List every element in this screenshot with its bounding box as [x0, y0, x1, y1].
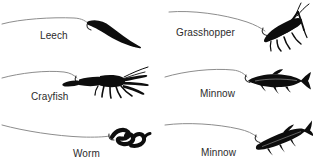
- bait-cell-minnow-angled: Minnow: [157, 111, 313, 167]
- bait-label-crayfish: Crayfish: [31, 91, 68, 102]
- bait-label-minnow-angled: Minnow: [201, 147, 236, 158]
- bait-label-grasshopper: Grasshopper: [176, 27, 235, 38]
- bait-cell-grasshopper: Grasshopper: [157, 0, 313, 56]
- bait-label-worm: Worm: [73, 148, 100, 159]
- bait-label-leech: Leech: [40, 30, 68, 41]
- bait-illustration-chart: Leech Grasshopper: [0, 0, 313, 167]
- bait-cell-minnow-horizontal: Minnow: [157, 56, 313, 112]
- bait-cell-worm: Worm: [0, 111, 156, 167]
- minnow-silhouette-icon: [157, 56, 313, 112]
- crayfish-silhouette-icon: [0, 56, 156, 112]
- bait-label-minnow-horizontal: Minnow: [200, 88, 235, 99]
- bait-cell-leech: Leech: [0, 0, 156, 56]
- leech-silhouette-icon: [0, 0, 156, 56]
- minnow-silhouette-icon: [157, 111, 313, 167]
- bait-cell-crayfish: Crayfish: [0, 56, 156, 112]
